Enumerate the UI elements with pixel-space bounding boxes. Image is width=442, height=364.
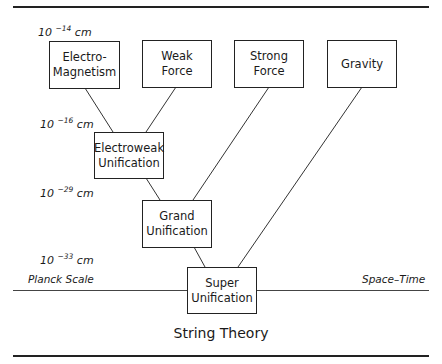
box-grand-unification: GrandUnification	[142, 200, 212, 248]
link-electroweak-grand	[146, 178, 160, 200]
box-electromagnetism: Electro-Magnetism	[49, 41, 120, 89]
link-grand-super	[194, 247, 205, 267]
scale-label-29: 10 −29 cm	[40, 185, 94, 200]
box-super-unification: SuperUnification	[187, 267, 257, 314]
box-weak-force: WeakForce	[142, 40, 212, 88]
scale-label-33: 10 −33 cm	[40, 252, 94, 267]
link-strong-grand	[193, 87, 269, 200]
box-gravity: Gravity	[327, 40, 397, 88]
link-weak-electroweak	[146, 87, 176, 132]
diagram-title: String Theory	[0, 325, 442, 341]
link-gravity-super	[238, 87, 362, 267]
planck-scale-label: Planck Scale	[28, 273, 94, 285]
scale-label-14: 10 −14 cm	[38, 24, 92, 39]
bottom-rule	[13, 355, 429, 357]
box-strong-force: StrongForce	[234, 40, 304, 88]
space-time-label: Space–Time	[362, 273, 425, 285]
box-electroweak-unification: ElectroweakUnification	[94, 132, 164, 179]
scale-label-16: 10 −16 cm	[40, 116, 94, 131]
